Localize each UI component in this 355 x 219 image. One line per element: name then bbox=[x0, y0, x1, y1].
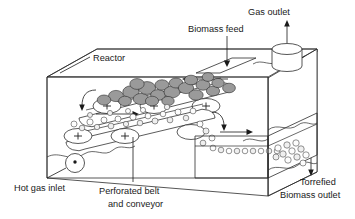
biomass-feed-label: Biomass feed bbox=[188, 24, 244, 34]
gas-outlet-label: Gas outlet bbox=[248, 7, 290, 17]
lower-belt-roller-1 bbox=[64, 129, 92, 144]
hot-gas-inlet-dot bbox=[73, 160, 76, 163]
reactor-label: Reactor bbox=[93, 53, 125, 63]
torrefied-outlet-label-line2: Biomass outlet bbox=[280, 190, 341, 200]
gas-outlet-stack bbox=[272, 20, 302, 72]
reactor-schematic-svg: Gas outlet Biomass feed Reactor Hot gas … bbox=[0, 0, 355, 219]
perforated-belt-label-line2: and conveyor bbox=[108, 199, 163, 209]
gas-outlet-cylinder-top bbox=[272, 44, 302, 55]
torrefied-outlet-label-line1: Torrefied bbox=[300, 177, 336, 187]
gas-outlet-arrow-head bbox=[284, 20, 290, 27]
perforated-belt-label-line1: Perforated belt bbox=[99, 186, 160, 196]
diagram-canvas: Gas outlet Biomass feed Reactor Hot gas … bbox=[0, 0, 355, 219]
lower-belt-roller-2 bbox=[111, 129, 139, 144]
hot-gas-inlet-label: Hot gas inlet bbox=[14, 183, 66, 193]
